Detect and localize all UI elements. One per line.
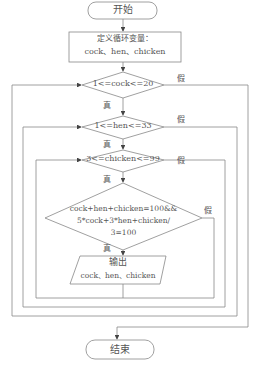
start-label: 开始 bbox=[88, 4, 157, 15]
cond-hen-label: 1<=hen<=33 bbox=[82, 122, 164, 131]
cond-check-line2: 5*cock+3*hen+chicken/ bbox=[45, 217, 202, 225]
output-label-line2: cock、hen、chicken bbox=[70, 272, 166, 280]
false-label-4: 假 bbox=[204, 207, 212, 216]
output-label-line1: 输出 bbox=[70, 258, 166, 268]
true-label-4: 真 bbox=[103, 245, 111, 254]
true-label-2: 真 bbox=[103, 141, 111, 150]
false-label-3: 假 bbox=[177, 157, 185, 166]
true-label-3: 真 bbox=[103, 176, 111, 185]
cond-chicken-label: 3<=chicken<=99 bbox=[82, 155, 164, 164]
false-label-2: 假 bbox=[177, 116, 185, 125]
cond-check-line1: cock+hen+chicken=100&& bbox=[45, 205, 202, 213]
false-label-1: 假 bbox=[177, 75, 185, 84]
init-label-line1: 定义循环变量： bbox=[69, 35, 181, 44]
init-label-line2: cock、hen、chicken bbox=[69, 48, 181, 57]
true-label-1: 真 bbox=[103, 102, 111, 111]
cond-check-line3: 3=100 bbox=[45, 229, 202, 237]
end-label: 结束 bbox=[86, 344, 154, 355]
cond-cock-label: 1<=cock<=20 bbox=[82, 80, 164, 89]
